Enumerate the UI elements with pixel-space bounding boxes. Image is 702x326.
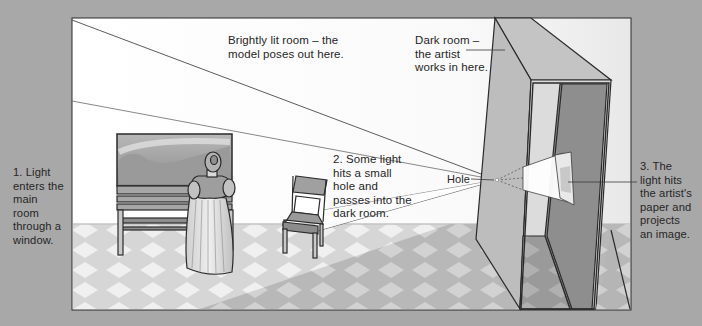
bright-room-label: Brightly lit room – the model poses out … [228, 34, 358, 61]
dark-room-label: Dark room – the artist works in here. [415, 34, 505, 75]
step-1-label: 1. Light enters the main room through a … [13, 166, 71, 248]
pinhole [495, 178, 498, 181]
hole-label: Hole [447, 173, 470, 187]
step-3-label: 3. The light hits the artist's paper and… [640, 160, 700, 242]
step-2-label: 2. Some light hits a small hole and pass… [333, 153, 443, 221]
